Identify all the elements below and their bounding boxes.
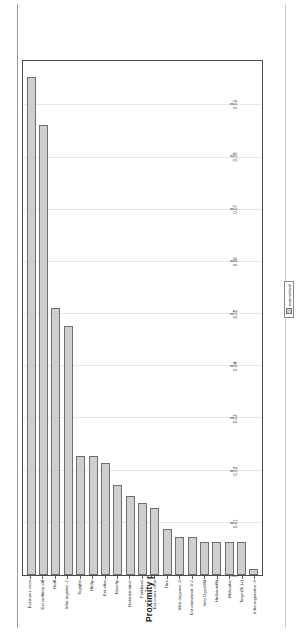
category-label: Infra register -2 xyxy=(65,580,69,609)
bar[interactable] xyxy=(126,496,135,575)
value-tick-label: 0.05 xyxy=(233,310,238,319)
category-label-row: Novelty xyxy=(111,576,123,636)
category-tick-mark xyxy=(204,576,205,579)
value-tick-mark xyxy=(230,523,233,524)
bar-row xyxy=(99,61,111,575)
category-tick-mark xyxy=(229,576,230,579)
value-tick-mark xyxy=(230,104,233,105)
bar[interactable] xyxy=(27,77,36,575)
category-tick-mark xyxy=(254,576,255,579)
bar-row xyxy=(124,61,136,575)
bar-row xyxy=(112,61,124,575)
bar[interactable] xyxy=(39,125,48,575)
category-label: Infra dagvara -0 xyxy=(178,580,182,610)
value-tick-label: 0.04 xyxy=(233,362,238,371)
category-label: Titre xyxy=(165,580,169,588)
category-label-row: Velo OgscOM xyxy=(199,576,211,636)
category-label: Determination xyxy=(128,580,132,607)
value-tick-mark xyxy=(230,470,233,471)
bar-row xyxy=(62,61,74,575)
value-tick-label: 0.09 xyxy=(233,100,238,109)
value-tick-label: 0.07 xyxy=(233,205,238,214)
category-label-row: Forkbase xyxy=(136,576,148,636)
bar-row xyxy=(174,61,186,575)
category-tick-mark xyxy=(154,576,155,579)
value-tick-label: 0.08 xyxy=(233,152,238,161)
category-label: Novelty xyxy=(115,580,119,594)
category-tick-mark xyxy=(129,576,130,579)
value-tick-label: 0.03 xyxy=(233,414,238,423)
category-label-row: Hmbeutefftt xyxy=(211,576,223,636)
category-label-row: Est dataverstr -0.2 xyxy=(186,576,198,636)
bar[interactable] xyxy=(163,529,172,575)
value-tick-mark xyxy=(230,365,233,366)
bar-row xyxy=(25,61,37,575)
category-label: Hmbeutefftt xyxy=(215,580,219,602)
category-label-row: Target2k (+) xyxy=(236,576,248,636)
value-tick-mark xyxy=(230,575,233,576)
bar-row xyxy=(37,61,49,575)
category-label: Forkbase xyxy=(140,580,144,598)
category-label-row: Hdiff xyxy=(49,576,61,636)
category-label: Hdiff xyxy=(53,580,57,589)
value-tick-label: 0.01 xyxy=(233,519,238,528)
bar[interactable] xyxy=(76,456,85,575)
value-tick-mark xyxy=(230,418,233,419)
bar-row xyxy=(149,61,161,575)
value-tick-label: 0.06 xyxy=(233,257,238,266)
bar[interactable] xyxy=(212,542,221,575)
category-label-row: Titre xyxy=(161,576,173,636)
category-label: Est max+ conv xyxy=(28,580,32,608)
category-tick-mark xyxy=(55,576,56,579)
category-label: Molvatter xyxy=(228,580,232,598)
category-label: Hfdlip xyxy=(90,580,94,591)
legend-swatch-icon xyxy=(286,308,292,314)
category-tick-mark xyxy=(217,576,218,579)
bar-row xyxy=(75,61,87,575)
category-label: Tsgrijfm xyxy=(78,580,82,595)
value-tick-label: 0.02 xyxy=(233,467,238,476)
category-tick-mark xyxy=(80,576,81,579)
bar[interactable] xyxy=(51,308,60,575)
plot-area xyxy=(22,60,263,576)
bar[interactable] xyxy=(64,326,73,575)
figure-rotator: Proximity plot Est max+ convEst surftime… xyxy=(0,0,298,636)
category-label-row: Est max+ conv xyxy=(24,576,36,636)
legend[interactable]: normalized xyxy=(284,281,294,318)
category-tick-mark xyxy=(92,576,93,579)
category-label-row: Tsgrijfm xyxy=(74,576,86,636)
bar[interactable] xyxy=(200,542,209,575)
bar[interactable] xyxy=(113,485,122,575)
figure-top-rule xyxy=(17,4,18,628)
category-label-row: Est conv+ conv xyxy=(149,576,161,636)
page-background: Proximity plot Est max+ convEst surftime… xyxy=(0,0,298,636)
bar-row xyxy=(198,61,210,575)
category-tick-mark xyxy=(167,576,168,579)
bar[interactable] xyxy=(188,537,197,575)
category-label: Est dataverstr -0.2 xyxy=(190,580,194,615)
value-tick-mark xyxy=(230,208,233,209)
category-label-row: Molvatter xyxy=(224,576,236,636)
category-label: Est conv+ conv xyxy=(153,580,157,609)
bar[interactable] xyxy=(89,456,98,575)
bar[interactable] xyxy=(101,463,110,575)
category-label: Est surftime diff xyxy=(41,580,45,610)
bar[interactable] xyxy=(175,537,184,575)
category-label: Velo OgscOM xyxy=(203,580,207,607)
value-axis: 00.010.020.030.040.050.060.070.080.09 xyxy=(233,60,263,576)
bar[interactable] xyxy=(138,503,147,575)
bar[interactable] xyxy=(150,508,159,575)
category-label-row: Infra register -2 xyxy=(61,576,73,636)
category-label-row: Determination xyxy=(124,576,136,636)
category-label-row: Infra registerlor -0 xyxy=(248,576,260,636)
category-label: Est after xyxy=(103,580,107,596)
category-tick-mark xyxy=(42,576,43,579)
category-tick-mark xyxy=(30,576,31,579)
category-tick-mark xyxy=(179,576,180,579)
value-tick-mark xyxy=(230,261,233,262)
bar-row xyxy=(87,61,99,575)
proximity-plot-figure: Proximity plot Est max+ convEst surftime… xyxy=(0,0,298,636)
category-label: Infra registerlor -0 xyxy=(253,580,257,614)
bar-row xyxy=(136,61,148,575)
value-tick-mark xyxy=(230,156,233,157)
